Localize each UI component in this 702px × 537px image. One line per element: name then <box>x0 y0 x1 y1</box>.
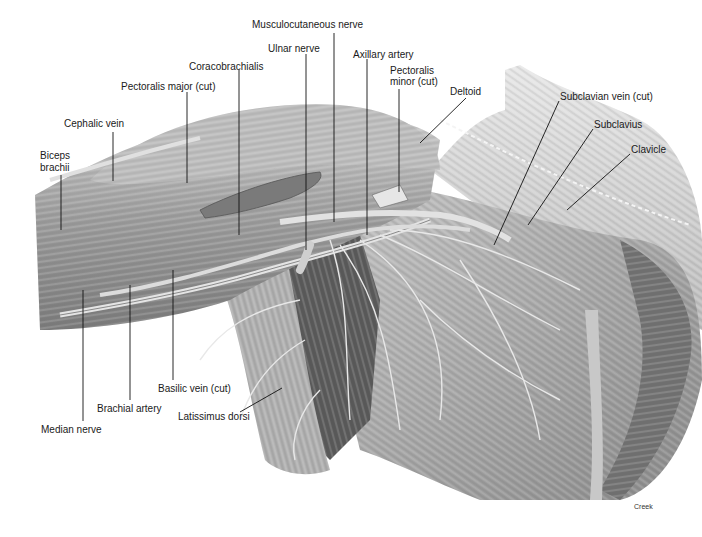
label-latissimus-dorsi: Latissimus dorsi <box>178 411 250 423</box>
label-axillary-artery: Axillary artery <box>353 49 414 61</box>
label-median-nerve: Median nerve <box>41 424 102 436</box>
label-pectoralis-minor-line2: minor (cut) <box>390 76 438 88</box>
label-subclavius: Subclavius <box>594 119 642 131</box>
label-pectoralis-major: Pectoralis major (cut) <box>121 81 215 93</box>
leader-deltoid <box>420 98 466 143</box>
label-subclavian-vein: Subclavian vein (cut) <box>560 91 653 103</box>
label-ulnar-nerve: Ulnar nerve <box>268 43 320 55</box>
label-musculocutaneous-nerve: Musculocutaneous nerve <box>252 19 363 31</box>
label-biceps-brachii-line2: brachii <box>40 162 69 174</box>
label-basilic-vein: Basilic vein (cut) <box>158 383 231 395</box>
label-brachial-artery: Brachial artery <box>97 403 161 415</box>
label-cephalic-vein: Cephalic vein <box>64 118 124 130</box>
label-deltoid: Deltoid <box>450 86 481 98</box>
illustrator-credit: Creek <box>634 503 653 510</box>
label-coracobrachialis: Coracobrachialis <box>189 61 263 73</box>
label-clavicle: Clavicle <box>631 144 666 156</box>
label-biceps-brachii-line1: Biceps <box>40 150 70 162</box>
anatomy-illustration <box>0 0 702 537</box>
